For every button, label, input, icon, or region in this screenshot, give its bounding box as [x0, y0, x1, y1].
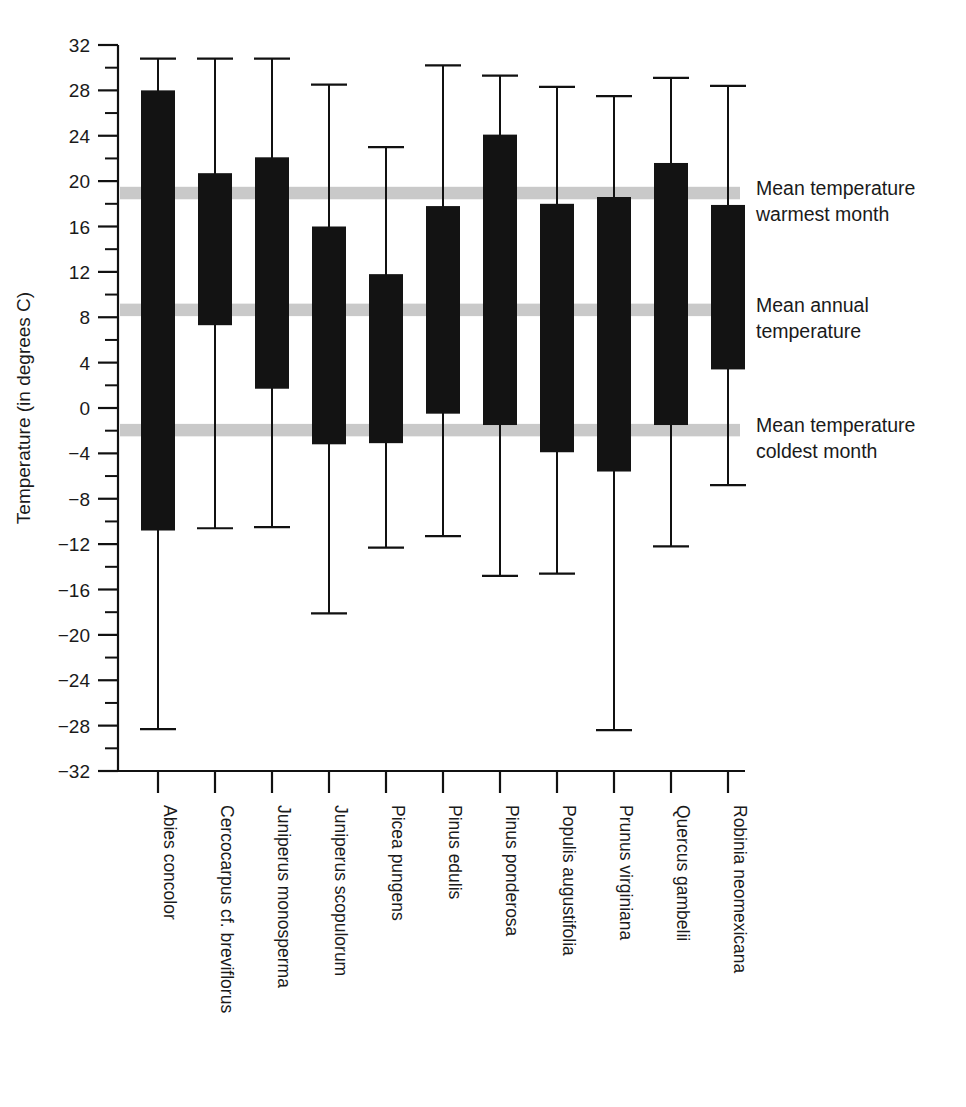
reference-band-coldest [120, 424, 740, 436]
species-range-bar [539, 87, 575, 574]
y-tick-label: 32 [69, 35, 90, 56]
species-range-bar [653, 78, 689, 546]
x-category-label: Pinus edulis [445, 805, 465, 900]
y-tick-label: −32 [58, 761, 90, 782]
species-range-bar [254, 59, 290, 527]
y-tick-label: −8 [68, 489, 90, 510]
species-range-bar [311, 85, 347, 614]
y-tick-label: −4 [68, 443, 90, 464]
y-tick-label: 8 [79, 307, 90, 328]
x-category-label: Quercus gambelii [673, 805, 693, 941]
y-axis-title: Temperature (in degrees C) [13, 292, 34, 524]
x-category-label: Populis augustifolia [559, 805, 579, 956]
y-tick-label: 0 [79, 398, 90, 419]
y-tick-label: 28 [69, 80, 90, 101]
y-axis-ticks [98, 45, 118, 771]
range-box [369, 274, 403, 443]
annotation-annual-line2: temperature [756, 320, 861, 342]
x-category-label: Juniperus scopulorum [331, 805, 351, 976]
range-box [255, 157, 289, 388]
species-range-bar [140, 59, 176, 729]
annotation-warmest-line1: Mean temperature [756, 177, 915, 199]
category-labels: Abies concolorCercocarpus cf. brevifloru… [160, 805, 750, 1013]
species-range-bar [197, 59, 233, 529]
annotation-annual-line1: Mean annual [756, 294, 869, 316]
range-box [597, 197, 631, 472]
range-box [540, 204, 574, 452]
chart-figure: 322824201612840−4−8−12−16−20−24−28−32 Te… [0, 0, 966, 1107]
x-category-label: Abies concolor [160, 805, 180, 920]
x-category-label: Cercocarpus cf. breviflorus [217, 805, 237, 1013]
y-tick-label: 12 [69, 262, 90, 283]
y-tick-label: −16 [58, 580, 90, 601]
y-tick-label: −24 [58, 670, 91, 691]
y-tick-label: −28 [58, 716, 90, 737]
y-axis-title: Temperature (in degrees C) [13, 292, 34, 524]
range-box [711, 205, 745, 369]
range-box [198, 173, 232, 325]
species-range-bar [425, 65, 461, 536]
x-category-label: Prunus virginiana [616, 805, 636, 940]
x-category-label: Picea pungens [388, 805, 408, 921]
data-bars [140, 59, 746, 731]
x-category-label: Juniperus monosperma [274, 805, 294, 988]
y-tick-label: 16 [69, 217, 90, 238]
annotation-labels: Mean temperaturewarmest monthMean annual… [755, 177, 915, 462]
x-category-label: Robinia neomexicana [730, 805, 750, 974]
temperature-range-chart: 322824201612840−4−8−12−16−20−24−28−32 Te… [0, 0, 966, 1107]
annotation-coldest-line1: Mean temperature [756, 414, 915, 436]
annotation-coldest-line2: coldest month [756, 440, 877, 462]
y-tick-label: −20 [58, 625, 90, 646]
x-axis-ticks [158, 771, 728, 793]
y-tick-label: 4 [79, 353, 90, 374]
y-tick-label: −12 [58, 534, 90, 555]
y-tick-label: 24 [69, 126, 91, 147]
range-box [654, 163, 688, 425]
y-tick-label: 20 [69, 171, 90, 192]
species-range-bar [368, 147, 404, 547]
annotation-warmest-line2: warmest month [755, 203, 889, 225]
range-box [483, 135, 517, 425]
x-category-label: Pinus ponderosa [502, 805, 522, 937]
range-box [312, 227, 346, 445]
y-axis-tick-labels: 322824201612840−4−8−12−16−20−24−28−32 [58, 35, 91, 782]
range-box [426, 206, 460, 414]
range-box [141, 90, 175, 530]
species-range-bar [482, 76, 518, 576]
